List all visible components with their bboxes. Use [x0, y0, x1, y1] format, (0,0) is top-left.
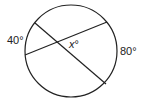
angle-degree-sign: ° — [75, 38, 79, 50]
circle — [25, 5, 117, 97]
arc-label-right: 80° — [120, 46, 137, 57]
chord-1 — [35, 23, 106, 84]
arc-label-left: 40° — [7, 35, 24, 46]
angle-label: x° — [69, 39, 79, 50]
